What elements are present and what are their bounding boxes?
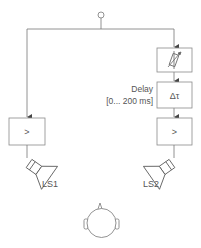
listener-head-icon — [84, 203, 119, 238]
attenuator-block — [157, 48, 192, 72]
diagram-canvas: Δτ Delay [0... 200 ms] > > LS1 LS2 — [0, 0, 201, 248]
input-node — [98, 12, 104, 29]
amplifier-symbol: > — [172, 127, 177, 137]
delay-block: Δτ — [157, 82, 192, 108]
amplifier-symbol: > — [24, 127, 29, 137]
delay-range-label: [0... 200 ms] — [106, 96, 153, 106]
speaker-right-label: LS2 — [143, 179, 159, 189]
delay-label: Delay — [131, 84, 153, 94]
delay-symbol: Δτ — [170, 91, 180, 101]
amplifier-right-block: > — [157, 118, 192, 158]
amplifier-left-block: > — [9, 118, 45, 158]
speaker-left-label: LS1 — [42, 179, 58, 189]
